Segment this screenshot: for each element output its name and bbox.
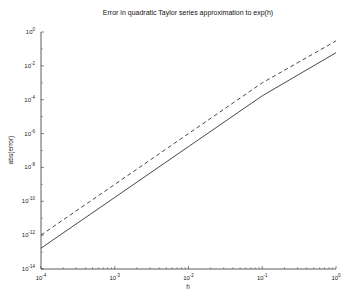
y-tick-label: 10-10 bbox=[22, 196, 36, 204]
x-tick-label: 10-4 bbox=[36, 273, 47, 281]
y-tick-label: 10-12 bbox=[22, 230, 36, 238]
series-solid-line bbox=[41, 53, 336, 249]
chart: Error in quadratic Taylor series approxi… bbox=[0, 0, 356, 306]
y-tick-label: 10-2 bbox=[24, 61, 35, 69]
chart-title: Error in quadratic Taylor series approxi… bbox=[103, 9, 273, 17]
x-tick-label: 100 bbox=[331, 273, 341, 281]
y-tick-label: 10-4 bbox=[24, 95, 35, 103]
x-ticks: 10-410-310-210-1100 bbox=[36, 266, 341, 281]
y-tick-label: 10-6 bbox=[24, 129, 35, 137]
x-tick-label: 10-3 bbox=[109, 273, 120, 281]
x-tick-label: 10-1 bbox=[257, 273, 268, 281]
y-tick-label: 10-14 bbox=[22, 264, 36, 272]
x-axis-label: h bbox=[186, 283, 190, 290]
series-dashed-line bbox=[41, 41, 336, 235]
y-tick-label: 100 bbox=[26, 27, 36, 35]
x-tick-label: 10-2 bbox=[183, 273, 194, 281]
y-tick-label: 10-8 bbox=[24, 162, 35, 170]
y-axis-label: abs(error) bbox=[7, 136, 15, 165]
